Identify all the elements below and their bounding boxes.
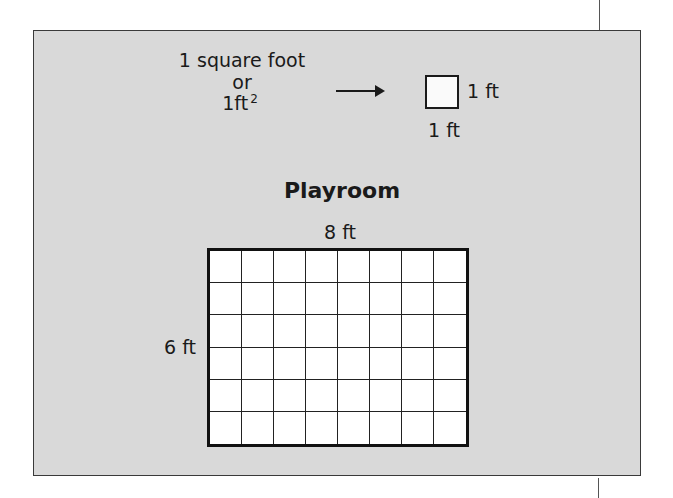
grid-square — [338, 348, 370, 380]
grid-square — [242, 348, 274, 380]
grid-square — [210, 348, 242, 380]
grid-square — [306, 251, 338, 283]
grid-square — [338, 283, 370, 315]
grid-square — [370, 283, 402, 315]
grid-square — [306, 348, 338, 380]
grid-square — [274, 412, 306, 444]
grid-square — [210, 412, 242, 444]
grid-square — [370, 251, 402, 283]
room-height-label: 6 ft — [164, 338, 196, 357]
grid-square — [434, 348, 466, 380]
grid-square — [402, 283, 434, 315]
grid-square — [242, 251, 274, 283]
grid-square — [274, 380, 306, 412]
grid-square — [402, 380, 434, 412]
grid-square — [402, 315, 434, 347]
grid-square — [402, 348, 434, 380]
unit-square — [425, 75, 459, 109]
grid-square — [434, 315, 466, 347]
unit-square-side-label: 1 ft — [467, 82, 499, 101]
definition-line-3: 1ft2 — [222, 93, 258, 113]
grid-square — [338, 380, 370, 412]
definition-line-1: 1 square foot — [179, 51, 305, 70]
grid-square — [274, 251, 306, 283]
grid-square — [434, 283, 466, 315]
unit-square-bottom-label: 1 ft — [428, 121, 460, 140]
grid-square — [306, 412, 338, 444]
grid-square — [338, 412, 370, 444]
grid-square — [274, 315, 306, 347]
page-divider-line-top — [599, 0, 600, 31]
unit-exponent: 2 — [250, 92, 258, 106]
room-width-label: 8 ft — [324, 223, 356, 242]
grid-square — [306, 380, 338, 412]
room-title: Playroom — [284, 180, 400, 202]
definition-line-2: or — [232, 73, 251, 92]
grid-square — [210, 283, 242, 315]
grid-square — [242, 380, 274, 412]
grid-square — [402, 251, 434, 283]
right-arrow-icon — [336, 90, 382, 92]
grid-square — [338, 251, 370, 283]
grid-square — [370, 315, 402, 347]
grid-square — [370, 380, 402, 412]
grid-square — [434, 412, 466, 444]
grid-square — [242, 315, 274, 347]
grid-square — [370, 412, 402, 444]
grid-square — [306, 283, 338, 315]
grid-square — [210, 251, 242, 283]
grid-square — [434, 380, 466, 412]
unit-notation: 1ft — [222, 92, 248, 114]
grid-square — [338, 315, 370, 347]
grid-square — [306, 315, 338, 347]
grid-square — [242, 283, 274, 315]
grid-square — [402, 412, 434, 444]
grid-square — [210, 315, 242, 347]
grid-square — [274, 283, 306, 315]
grid-square — [434, 251, 466, 283]
page-divider-line-bottom — [598, 478, 599, 498]
grid-square — [370, 348, 402, 380]
room-grid — [207, 248, 469, 447]
grid-square — [242, 412, 274, 444]
grid-square — [274, 348, 306, 380]
grid-square — [210, 380, 242, 412]
